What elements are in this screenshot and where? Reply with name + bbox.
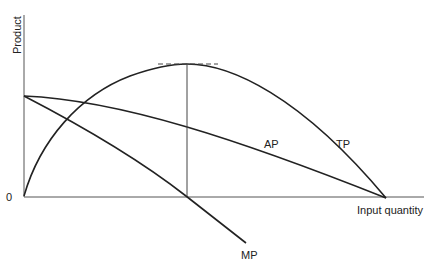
origin-label: 0 [6,191,12,203]
ap-curve [24,96,386,198]
x-axis-label: Input quantity [357,204,424,216]
chart: Product 0 Input quantity TP AP MP [0,0,439,275]
mp-label: MP [241,249,258,261]
mp-curve [24,96,246,243]
ap-label: AP [264,138,279,150]
tp-label: TP [336,138,350,150]
tp-curve [24,64,386,198]
y-axis-label: Product [11,16,23,54]
